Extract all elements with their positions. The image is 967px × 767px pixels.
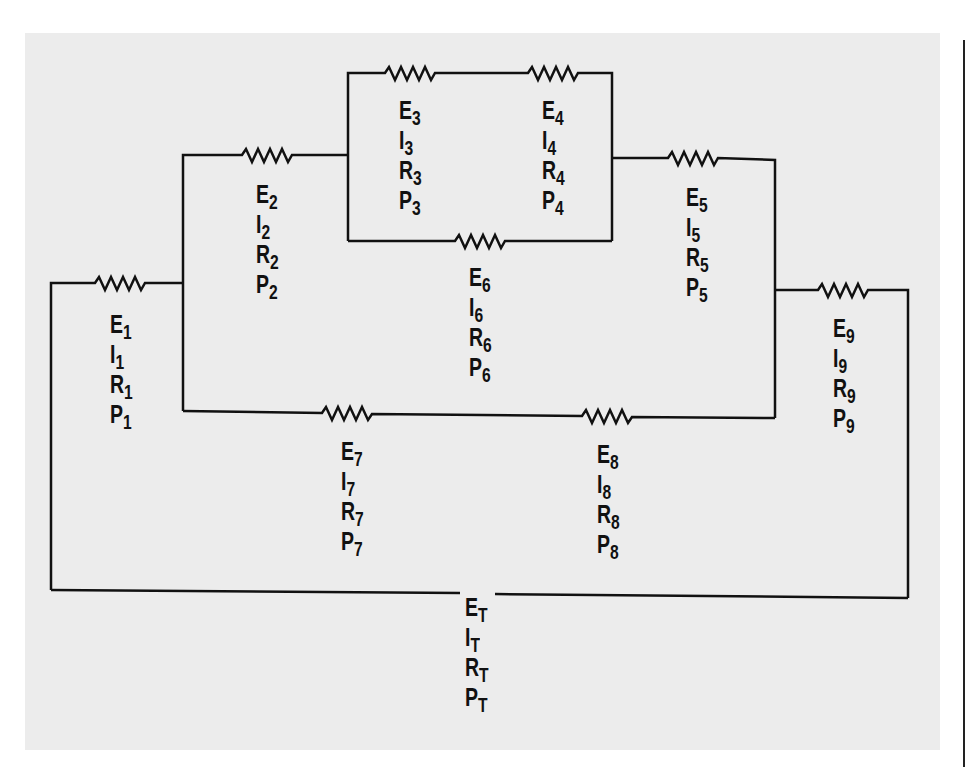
power-label: P4 xyxy=(542,186,564,216)
power-label: P6 xyxy=(469,353,491,383)
power-label: P3 xyxy=(399,186,421,216)
current-label: IT xyxy=(465,623,488,653)
resistance-label: R2 xyxy=(256,240,278,270)
current-label: I6 xyxy=(469,293,491,323)
power-label: P2 xyxy=(256,270,278,300)
label-r6: E6 I6 R6 P6 xyxy=(469,263,497,383)
voltage-label: E5 xyxy=(686,183,708,213)
resistance-label: RT xyxy=(465,653,488,683)
resistance-label: R4 xyxy=(542,156,564,186)
current-label: I7 xyxy=(341,467,363,497)
label-total: ET IT RT PT xyxy=(465,593,494,713)
power-label: P8 xyxy=(597,530,619,560)
wire-bottom-right xyxy=(495,594,908,598)
resistance-label: R1 xyxy=(110,370,132,400)
resistance-label: R5 xyxy=(686,243,708,273)
power-label: P9 xyxy=(833,404,855,434)
resistance-label: R6 xyxy=(469,323,491,353)
resistance-label: R3 xyxy=(399,156,421,186)
voltage-label: ET xyxy=(465,593,488,623)
resistance-label: R7 xyxy=(341,497,363,527)
current-label: I5 xyxy=(686,213,708,243)
voltage-label: E1 xyxy=(110,310,132,340)
label-r7: E7 I7 R7 P7 xyxy=(341,437,369,557)
power-label: P1 xyxy=(110,400,132,430)
power-label: P5 xyxy=(686,273,708,303)
power-label: PT xyxy=(465,683,488,713)
current-label: I3 xyxy=(399,126,421,156)
wire-r6 xyxy=(348,235,612,248)
label-r3: E3 I3 R3 P3 xyxy=(399,96,427,216)
current-label: I4 xyxy=(542,126,564,156)
label-r2: E2 I2 R2 P2 xyxy=(256,180,284,300)
power-label: P7 xyxy=(341,527,363,557)
voltage-label: E6 xyxy=(469,263,491,293)
voltage-label: E7 xyxy=(341,437,363,467)
current-label: I2 xyxy=(256,210,278,240)
label-r9: E9 I9 R9 P9 xyxy=(833,314,861,434)
voltage-label: E2 xyxy=(256,180,278,210)
wire-r7-r8 xyxy=(183,407,775,423)
wire-r3-r4 xyxy=(348,67,612,241)
resistance-label: R8 xyxy=(597,500,619,530)
label-r1: E1 I1 R1 P1 xyxy=(110,310,138,430)
voltage-label: E3 xyxy=(399,96,421,126)
label-r8: E8 I8 R8 P8 xyxy=(597,440,625,560)
voltage-label: E8 xyxy=(597,440,619,470)
voltage-label: E4 xyxy=(542,96,564,126)
wire-bottom-left xyxy=(51,590,460,593)
current-label: I8 xyxy=(597,470,619,500)
resistance-label: R9 xyxy=(833,374,855,404)
voltage-label: E9 xyxy=(833,314,855,344)
current-label: I1 xyxy=(110,340,132,370)
label-r5: E5 I5 R5 P5 xyxy=(686,183,714,303)
label-r4: E4 I4 R4 P4 xyxy=(542,96,570,216)
current-label: I9 xyxy=(833,344,855,374)
